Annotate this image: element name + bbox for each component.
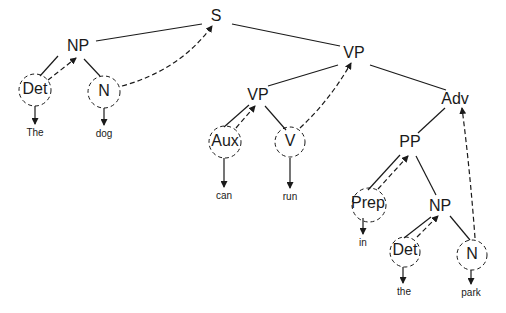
edge-pp-prep (368, 155, 400, 190)
edge-adv-pp (418, 108, 445, 133)
word-labels: The dog can run in the park (26, 127, 481, 298)
category-labels: S NP Det N VP VP Adv Aux V PP Prep NP De… (23, 7, 478, 262)
node-det-inner: Det (393, 241, 418, 258)
edge-np-det (40, 56, 58, 76)
word-the-2: the (397, 286, 411, 297)
edge-np-det2 (404, 217, 431, 238)
edge-vp-v (265, 106, 286, 130)
node-n: N (98, 82, 110, 99)
node-s: S (211, 7, 222, 24)
arrow-det-to-np (48, 58, 76, 80)
edge-np-n2 (450, 216, 470, 240)
word-run: run (283, 191, 297, 202)
syntax-tree-diagram: S NP Det N VP VP Adv Aux V PP Prep NP De… (0, 0, 506, 313)
word-in: in (359, 237, 367, 248)
arrow-n-to-adv (462, 108, 475, 238)
node-prep: Prep (351, 194, 385, 211)
node-v: V (285, 132, 296, 149)
word-the: The (26, 127, 44, 138)
edge-vp-adv (370, 65, 446, 90)
arrow-aux-to-vp (236, 106, 255, 128)
node-vp: VP (343, 44, 364, 61)
node-vp-inner: VP (247, 86, 268, 103)
node-np: NP (67, 37, 89, 54)
word-park: park (461, 287, 481, 298)
edge-s-vp (232, 24, 340, 46)
node-pp: PP (399, 133, 420, 150)
node-det: Det (23, 80, 48, 97)
edge-np-n (84, 59, 100, 76)
node-n-inner: N (466, 245, 478, 262)
edge-vp-vp (268, 65, 338, 86)
edge-s-np (96, 24, 202, 41)
node-adv: Adv (441, 90, 469, 107)
arrow-v-to-vp (300, 63, 351, 128)
word-can: can (216, 190, 232, 201)
node-np-inner: NP (429, 197, 451, 214)
arrow-prep-to-pp (378, 156, 408, 189)
word-dog: dog (96, 128, 113, 139)
edge-pp-np (416, 156, 436, 195)
edge-vp-aux (224, 105, 249, 127)
node-aux: Aux (211, 132, 239, 149)
